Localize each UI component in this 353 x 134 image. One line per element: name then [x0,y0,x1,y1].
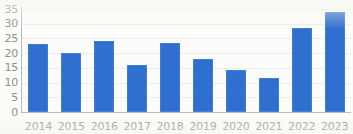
x-tick-label: 2020 [222,120,249,133]
x-tick-label: 2015 [58,120,85,133]
bar[interactable] [61,53,81,112]
bar[interactable] [28,44,48,112]
x-tick-slot: 2017 [121,115,154,133]
bar[interactable] [160,43,180,112]
bar-slot [121,9,154,112]
bar[interactable] [127,65,147,112]
y-tick-label: 30 [4,18,18,29]
y-tick-label: 5 [11,92,18,103]
bar[interactable] [226,70,246,112]
x-tick-slot: 2021 [252,115,285,133]
x-tick-label: 2022 [288,120,315,133]
x-tick-slot: 2015 [55,115,88,133]
y-axis: 05101520253035 [0,0,20,134]
x-axis: 2014201520162017201820192020202120222023 [22,115,351,133]
y-tick-label: 25 [4,33,18,44]
y-tick-label: 35 [4,4,18,15]
bar[interactable] [292,28,312,112]
x-tick-label: 2016 [91,120,118,133]
bar-slot [55,9,88,112]
bar-slot [318,9,351,112]
x-tick-slot: 2018 [154,115,187,133]
x-tick-slot: 2014 [22,115,55,133]
x-tick-label: 2018 [156,120,183,133]
bars-series [22,9,351,112]
bar-slot [187,9,220,112]
bar-slot [219,9,252,112]
x-tick-label: 2023 [321,120,348,133]
x-tick-slot: 2023 [318,115,351,133]
y-tick-label: 20 [4,48,18,59]
bar-chart: 05101520253035 2014201520162017201820192… [0,0,353,134]
y-tick-label: 0 [11,107,18,118]
bar[interactable] [325,12,345,112]
x-tick-slot: 2019 [187,115,220,133]
x-tick-label: 2019 [189,120,216,133]
bar[interactable] [259,78,279,112]
x-tick-label: 2021 [255,120,282,133]
bar-slot [285,9,318,112]
x-tick-label: 2014 [25,120,52,133]
bar[interactable] [94,41,114,112]
bar-slot [154,9,187,112]
bar[interactable] [193,59,213,112]
x-tick-slot: 2016 [88,115,121,133]
bar-slot [252,9,285,112]
bar-slot [88,9,121,112]
x-tick-slot: 2022 [285,115,318,133]
x-axis-line [21,112,351,113]
y-tick-label: 15 [4,62,18,73]
bar-slot [22,9,55,112]
y-tick-label: 10 [4,77,18,88]
x-tick-label: 2017 [124,120,151,133]
x-tick-slot: 2020 [219,115,252,133]
